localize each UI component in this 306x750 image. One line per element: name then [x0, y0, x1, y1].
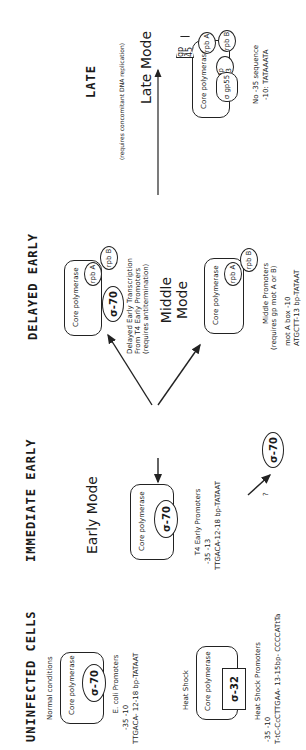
motA-sequence: ATGCTT-13 bp-TATAAT: [293, 270, 301, 346]
sigma70-normal: σ-70: [82, 664, 106, 702]
core-label: Core polymerase: [204, 652, 212, 712]
arrows-layer: [0, 0, 306, 750]
ecoli-promoter-title: E. coli Promoters: [112, 636, 120, 732]
middle-mode-line1: Middle: [158, 270, 174, 330]
core-label: Core polymerase: [68, 656, 76, 716]
heat-promoter-title: Heat Shock Promoters: [254, 642, 262, 720]
rpbB-middle: rpb B: [240, 248, 258, 272]
rpbA-middle: rpb A: [224, 262, 242, 286]
t4-early-promoter-positions: -35 -13: [204, 539, 212, 564]
early-mode-label: Early Mode: [84, 476, 100, 554]
rpbA-delayed: rpb A: [84, 262, 102, 286]
question-mark: ?: [262, 492, 270, 496]
late-promoter-line2: -10: TATAAATA: [262, 50, 270, 100]
core-label: Core polymerase: [212, 266, 220, 326]
delayed-desc-line1: Delayed Early Transcription: [126, 258, 134, 354]
arrow-to-middle: [158, 345, 200, 405]
middle-promoter-requirement: (requires gp mot A or B): [270, 265, 278, 350]
core-label: Core polymerase: [72, 268, 80, 328]
t4-early-promoter-title: T4 Early Promoters: [194, 474, 202, 570]
diagram-canvas: UNINFECTED CELLS Normal conditions Core …: [0, 0, 306, 750]
t4-early-promoter-sequence: TTGACA-12-18 bp-TATAAT: [214, 481, 222, 570]
title-late: LATE: [84, 65, 98, 98]
ecoli-promoter-sequence: TTGACA- 12-18 bp-TATAAT: [132, 653, 140, 744]
label-normal-conditions: Normal conditions: [46, 656, 54, 720]
late-requirement: (requires concomitant DNA replication): [118, 43, 125, 160]
late-mode-label: Late Mode: [138, 31, 154, 104]
title-immediate-early: IMMEDIATE EARLY: [24, 439, 38, 562]
ecoli-promoter-positions: -35 -10: [122, 705, 130, 730]
sigma-gp55-late: σ gp55: [216, 72, 238, 102]
middle-mode-line2: Mode: [174, 270, 190, 330]
title-uninfected: UNINFECTED CELLS: [24, 610, 38, 742]
label-heat-shock: Heat Shock: [182, 670, 190, 710]
middle-promoter-title: Middle Promoters: [262, 263, 270, 324]
core-label: Core polymerase: [138, 492, 146, 552]
sigma70-early: σ-70: [154, 500, 178, 538]
late-promoter-line1: No -35 sequence: [252, 45, 260, 104]
sigma70-released: σ-70: [262, 432, 284, 468]
rpbA-late: rpb A: [198, 32, 216, 54]
sigma70-delayed: σ-70: [102, 286, 124, 322]
sigma32: σ-32: [222, 668, 246, 710]
rpbB-late: rpb B: [218, 30, 236, 52]
motA-box-label: mot A box -10: [284, 297, 292, 346]
heat-promoter-sequence: T-tC-CcCTTGAA- 13-15bp- CCCCATtTa: [274, 614, 282, 744]
rpbB-delayed: rpb B: [100, 246, 118, 270]
delayed-desc-line2: From T4 Early Promoters: [134, 268, 142, 354]
heat-promoter-positions: -35 -10: [264, 717, 272, 742]
delayed-desc-line3: (requires antitermination): [142, 264, 150, 354]
core-label: Core polymerase: [200, 50, 208, 110]
middle-mode-label: Middle Mode: [158, 270, 190, 330]
title-delayed-early: DELAYED EARLY: [26, 233, 40, 340]
